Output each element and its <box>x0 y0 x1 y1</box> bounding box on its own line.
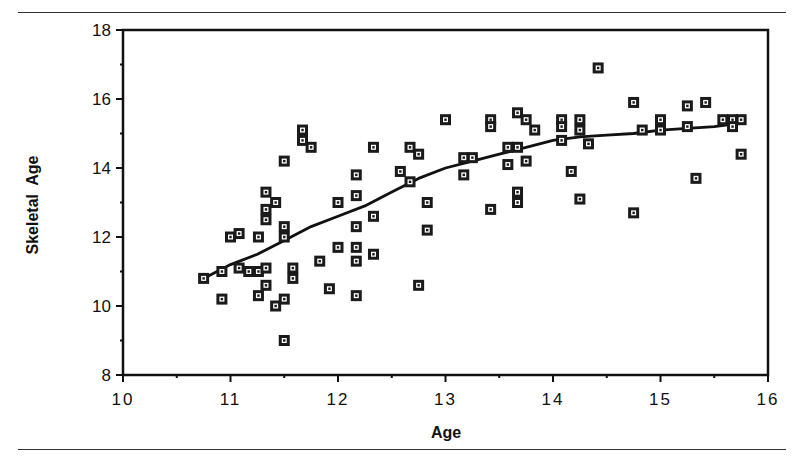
x-axis-title: Age <box>431 424 461 441</box>
data-point-marker <box>243 266 254 277</box>
data-point-marker <box>253 232 264 243</box>
trend-line <box>204 123 742 278</box>
data-point-marker <box>485 204 496 215</box>
data-point-marker <box>512 187 523 198</box>
data-point-marker <box>422 197 433 208</box>
data-point-marker <box>717 114 728 125</box>
y-tick-label: 14 <box>92 159 111 178</box>
data-point-marker <box>287 273 298 284</box>
data-point-marker <box>270 197 281 208</box>
data-point-marker <box>574 125 585 136</box>
data-point-marker <box>279 156 290 167</box>
data-point-marker <box>440 114 451 125</box>
x-axis: 10111213141516 <box>112 375 780 409</box>
data-point-marker <box>234 263 245 274</box>
data-point-marker <box>368 211 379 222</box>
plot-frame <box>123 30 768 375</box>
x-tick-label: 16 <box>757 390 780 409</box>
data-point-marker <box>556 121 567 132</box>
data-point-marker <box>736 149 747 160</box>
x-tick-label: 14 <box>542 390 565 409</box>
y-axis-title: Skeletal Age <box>24 155 41 254</box>
data-point-marker <box>566 166 577 177</box>
smoothed-curve <box>204 123 742 278</box>
data-point-marker <box>502 159 513 170</box>
data-point-marker <box>422 225 433 236</box>
data-point-marker <box>368 249 379 260</box>
y-tick-label: 18 <box>92 21 111 40</box>
data-point-marker <box>556 135 567 146</box>
data-point-marker <box>628 97 639 108</box>
data-point-marker <box>682 121 693 132</box>
data-point-marker <box>279 232 290 243</box>
data-point-marker <box>279 335 290 346</box>
data-point-marker <box>351 169 362 180</box>
data-point-marker <box>529 125 540 136</box>
data-point-marker <box>655 114 666 125</box>
data-point-marker <box>583 138 594 149</box>
data-point-marker <box>279 294 290 305</box>
y-tick-label: 8 <box>102 366 111 385</box>
data-point-marker <box>297 125 308 136</box>
data-point-marker <box>574 194 585 205</box>
data-point-marker <box>628 207 639 218</box>
x-tick-label: 15 <box>649 390 672 409</box>
scatter-chart: 81012141618 10111213141516 Age Skeletal … <box>0 0 800 460</box>
data-point-marker <box>260 214 271 225</box>
data-point-marker <box>413 149 424 160</box>
data-point-marker <box>655 125 666 136</box>
data-point-marker <box>368 142 379 153</box>
data-point-marker <box>314 256 325 267</box>
data-point-marker <box>216 294 227 305</box>
data-point-marker <box>260 187 271 198</box>
data-point-marker <box>260 204 271 215</box>
data-point-marker <box>333 242 344 253</box>
data-point-marker <box>324 283 335 294</box>
data-point-marker <box>405 176 416 187</box>
x-tick-label: 11 <box>220 390 242 409</box>
data-point-marker <box>512 197 523 208</box>
data-point-marker <box>521 114 532 125</box>
data-point-marker <box>574 114 585 125</box>
data-point-marker <box>467 152 478 163</box>
data-point-marker <box>351 290 362 301</box>
data-point-marker <box>736 114 747 125</box>
data-point-marker <box>351 221 362 232</box>
data-points <box>198 62 747 346</box>
x-tick-label: 12 <box>327 390 350 409</box>
data-point-marker <box>413 280 424 291</box>
x-tick-label: 10 <box>112 390 135 409</box>
data-point-marker <box>260 280 271 291</box>
data-point-marker <box>253 290 264 301</box>
y-tick-label: 10 <box>92 297 111 316</box>
data-point-marker <box>234 228 245 239</box>
data-point-marker <box>690 173 701 184</box>
data-point-marker <box>351 190 362 201</box>
data-point-marker <box>279 221 290 232</box>
data-point-marker <box>351 256 362 267</box>
data-point-marker <box>287 263 298 274</box>
y-tick-label: 16 <box>92 90 111 109</box>
data-point-marker <box>593 62 604 73</box>
plot-border <box>123 30 768 375</box>
y-tick-label: 12 <box>92 228 111 247</box>
data-point-marker <box>682 100 693 111</box>
data-point-marker <box>333 197 344 208</box>
data-point-marker <box>260 263 271 274</box>
data-point-marker <box>306 142 317 153</box>
data-point-marker <box>216 266 227 277</box>
data-point-marker <box>512 142 523 153</box>
data-point-marker <box>502 142 513 153</box>
data-point-marker <box>198 273 209 284</box>
data-point-marker <box>521 156 532 167</box>
data-point-marker <box>637 125 648 136</box>
y-axis: 81012141618 <box>92 21 123 385</box>
x-tick-label: 13 <box>434 390 457 409</box>
data-point-marker <box>700 97 711 108</box>
data-point-marker <box>485 121 496 132</box>
data-point-marker <box>395 166 406 177</box>
data-point-marker <box>458 169 469 180</box>
data-point-marker <box>351 242 362 253</box>
